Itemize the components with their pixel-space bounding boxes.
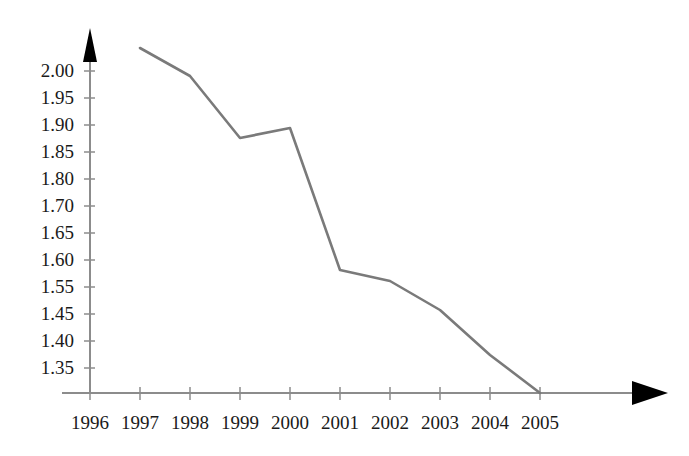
x-tick-label: 2005 — [500, 413, 580, 432]
y-tick-label: 1.85 — [0, 142, 74, 161]
y-tick-label: 1.45 — [0, 304, 74, 323]
y-tick-label: 1.80 — [0, 169, 74, 188]
y-tick-label: 1.40 — [0, 331, 74, 350]
data-line-series — [140, 48, 540, 393]
y-tick-label: 1.70 — [0, 196, 74, 215]
y-tick-label: 1.65 — [0, 223, 74, 242]
y-tick-label: 2.00 — [0, 61, 74, 80]
y-tick-label: 1.95 — [0, 88, 74, 107]
chart-canvas — [0, 0, 689, 456]
y-tick-label: 1.90 — [0, 115, 74, 134]
y-tick-label: 1.60 — [0, 250, 74, 269]
y-tick-label: 1.55 — [0, 277, 74, 296]
x-axis-arrow-icon — [632, 381, 668, 405]
line-chart: 2.00 1.95 1.90 1.85 1.80 1.70 1.65 1.60 … — [0, 0, 689, 456]
y-axis-arrow-icon — [83, 28, 97, 62]
y-tick-label: 1.35 — [0, 358, 74, 377]
